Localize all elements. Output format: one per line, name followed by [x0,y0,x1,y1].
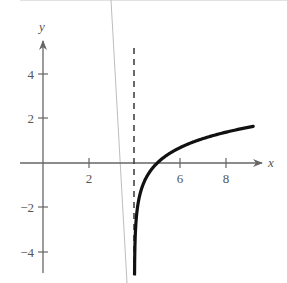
x-axis-label: x [267,155,274,170]
y-tick-label-2: 2 [28,111,35,126]
x-tick-label-6: 6 [177,171,184,186]
y-tick-label-neg4: −4 [20,245,34,260]
y-axis-label: y [37,19,45,34]
y-tick-label-neg2: −2 [20,200,34,215]
function-graph: 2 6 8 4 2 −2 −4 x y [0,0,287,283]
x-tick-label-2: 2 [86,171,93,186]
y-tick-label-4: 4 [28,67,35,82]
artifact-line [111,0,127,283]
log-curve [134,126,253,274]
x-tick-label-8: 8 [223,171,230,186]
